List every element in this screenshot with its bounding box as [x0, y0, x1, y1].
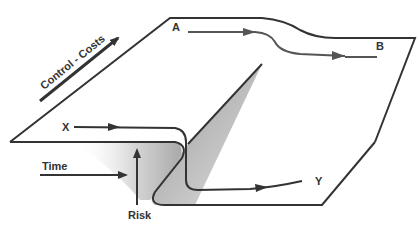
label-y: Y	[315, 175, 323, 187]
label-a: A	[172, 21, 180, 33]
risk-surface-diagram: Control - Costs A B X Y Time Risk	[0, 0, 418, 229]
diagram-canvas: Control - Costs A B X Y Time Risk	[0, 0, 418, 229]
risk-shadow	[75, 64, 262, 205]
risk-label: Risk	[128, 209, 152, 221]
label-x: X	[62, 121, 70, 133]
control-costs-label: Control - Costs	[38, 32, 107, 91]
path-a-to-b: A B	[172, 21, 384, 60]
time-label: Time	[42, 160, 67, 172]
label-b: B	[376, 40, 384, 52]
